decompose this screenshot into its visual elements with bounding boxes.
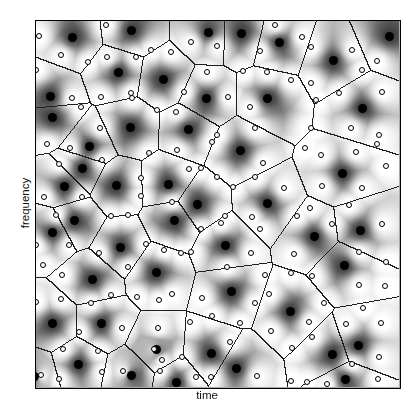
zero-marker	[291, 251, 297, 257]
zero-marker	[169, 199, 175, 205]
zero-marker	[40, 262, 46, 268]
zero-marker	[157, 368, 163, 374]
zero-marker	[169, 291, 175, 297]
maximum-marker	[164, 180, 173, 189]
zero-marker	[155, 325, 161, 331]
zero-marker	[257, 48, 263, 54]
zero-marker	[304, 379, 310, 385]
zero-marker	[44, 141, 50, 147]
zero-marker	[281, 185, 287, 191]
zero-marker	[97, 125, 103, 131]
zero-marker	[288, 378, 294, 384]
zero-marker	[108, 292, 114, 298]
zero-marker	[348, 125, 354, 131]
zero-marker	[379, 221, 385, 227]
zero-marker	[237, 320, 243, 326]
maximum-marker	[88, 275, 97, 284]
zero-marker	[103, 22, 109, 28]
zero-marker	[230, 184, 236, 190]
zero-marker	[53, 212, 59, 218]
maximum-marker	[207, 349, 216, 358]
zero-marker	[108, 213, 114, 219]
zero-marker	[193, 374, 199, 380]
maximum-marker	[85, 142, 94, 151]
zero-marker	[214, 43, 220, 49]
zero-marker	[268, 328, 274, 334]
maximum-marker	[204, 28, 213, 37]
zero-marker	[173, 109, 179, 115]
maximum-marker	[328, 350, 337, 359]
zero-marker	[324, 381, 330, 387]
zero-marker	[59, 272, 65, 278]
zero-marker	[56, 376, 62, 382]
zero-marker	[288, 77, 294, 83]
zero-marker	[120, 368, 126, 374]
zero-marker	[76, 329, 82, 335]
maximum-marker	[358, 104, 367, 113]
maximum-marker	[112, 181, 121, 190]
zero-marker	[60, 346, 66, 352]
zero-marker	[99, 157, 105, 163]
zero-marker	[198, 226, 204, 232]
zero-marker	[379, 89, 385, 95]
zero-marker	[376, 132, 382, 138]
maximum-marker	[236, 146, 245, 155]
zero-marker	[319, 183, 325, 189]
zero-marker	[56, 161, 62, 167]
zero-marker	[308, 125, 314, 131]
zero-marker	[360, 305, 366, 311]
maximum-marker	[385, 32, 394, 41]
zero-marker	[302, 145, 308, 151]
maximum-marker	[184, 125, 193, 134]
zero-marker	[199, 295, 205, 301]
maximum-marker	[356, 226, 365, 235]
zero-marker	[67, 145, 73, 151]
zero-marker	[254, 373, 260, 379]
maximum-marker	[286, 307, 295, 316]
zero-marker	[349, 361, 355, 367]
zero-marker	[313, 97, 319, 103]
zero-marker	[78, 104, 84, 110]
zero-marker	[257, 226, 263, 232]
zero-marker	[289, 345, 295, 351]
zero-marker	[168, 49, 174, 55]
zero-marker	[125, 212, 131, 218]
maximum-marker	[48, 113, 57, 122]
zero-marker	[174, 147, 180, 153]
zero-marker	[260, 160, 266, 166]
zero-marker	[148, 47, 154, 53]
zero-marker	[309, 273, 315, 279]
zero-marker	[209, 313, 215, 319]
zero-marker	[156, 297, 162, 303]
zero-marker	[187, 319, 193, 325]
zero-marker	[181, 89, 187, 95]
zero-marker	[349, 47, 355, 53]
zero-marker	[58, 52, 64, 58]
zero-marker	[252, 174, 258, 180]
zero-marker	[214, 132, 220, 138]
zero-marker	[359, 185, 365, 191]
zero-marker	[186, 166, 192, 172]
zero-marker	[346, 202, 352, 208]
maximum-marker	[48, 228, 57, 237]
maximum-marker	[221, 241, 230, 250]
zero-marker	[161, 247, 167, 253]
zero-marker	[204, 69, 210, 75]
maximum-marker	[340, 261, 349, 270]
zero-marker	[383, 259, 389, 265]
maximum-marker	[275, 38, 284, 47]
zero-marker	[288, 270, 294, 276]
zero-marker	[98, 94, 104, 100]
maximum-marker	[126, 123, 135, 132]
zero-marker	[79, 194, 85, 200]
zero-marker	[99, 369, 105, 375]
zero-marker	[95, 348, 101, 354]
maximum-marker	[263, 94, 272, 103]
zero-marker	[85, 59, 91, 65]
maximum-marker	[114, 68, 123, 77]
zero-marker	[383, 163, 389, 169]
zero-marker	[214, 174, 220, 180]
zero-marker	[307, 205, 313, 211]
zero-marker	[309, 334, 315, 340]
zero-marker	[375, 376, 381, 382]
